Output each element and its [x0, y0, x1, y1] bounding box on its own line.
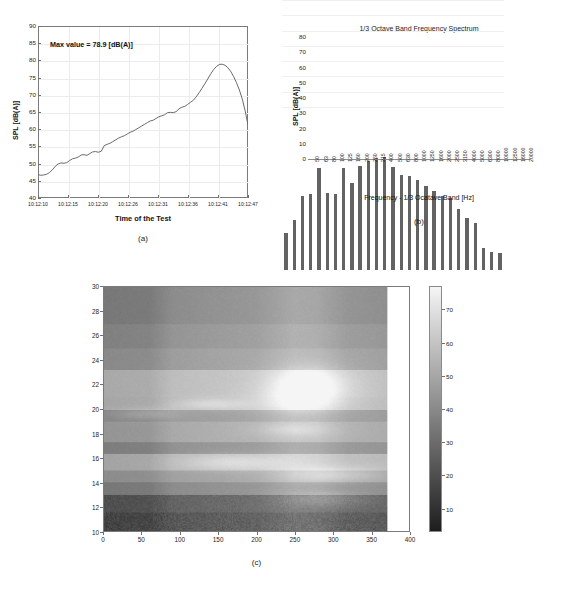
- panel-c-y-tickmark: [100, 286, 103, 287]
- panel-a-y-tickmark: [38, 43, 41, 44]
- panel-a-y-tickmark: [38, 78, 41, 79]
- panel-b-x-tick-label: 630: [405, 153, 411, 162]
- panel-a-y-tick-label: 85: [26, 40, 36, 46]
- panel-b-x-tick-label: 12500: [512, 148, 518, 162]
- panel-c-x-tick-label: 50: [138, 536, 145, 543]
- panel-a-x-tick-label: 10:12:36: [178, 201, 198, 207]
- panel-b-x-tick-label: 3150: [462, 150, 468, 162]
- panel-c-x-tickmark: [180, 532, 181, 535]
- panel-b-bar: [383, 157, 386, 270]
- panel-a-x-tickmark: [188, 195, 189, 198]
- panel-b-octave-spectrum: 1/3 Octave Band Frequency Spectrum SPL […: [282, 0, 570, 270]
- panel-b-y-tick-label: 60: [295, 65, 306, 71]
- panel-b-x-axis-label: Frequency - 1/3 Ocatave Band [Hz]: [308, 194, 530, 201]
- panel-c-colorbar-tickmark: [442, 409, 445, 410]
- panel-c-x-tickmark: [372, 532, 373, 535]
- panel-c-x-tickmark: [141, 532, 142, 535]
- panel-a-caption: (a): [123, 234, 163, 243]
- panel-b-x-tick-label: 100: [339, 153, 345, 162]
- panel-c-colorbar-tick-label: 20: [446, 472, 453, 479]
- panel-b-bar: [284, 233, 287, 270]
- panel-b-caption: (b): [399, 217, 439, 226]
- panel-c-x-tick-label: 250: [290, 536, 301, 543]
- panel-b-x-tick-label: 10000: [503, 148, 509, 162]
- panel-b-bar: [482, 248, 485, 270]
- panel-c-colorbar-tickmark: [442, 442, 445, 443]
- panel-c-y-tickmark: [100, 483, 103, 484]
- panel-c-x-tick-label: 400: [405, 536, 416, 543]
- panel-b-bar: [449, 198, 452, 270]
- panel-b-x-tick-label: 6300: [487, 150, 493, 162]
- panel-b-bar: [490, 252, 493, 270]
- panel-b-bar: [465, 218, 468, 270]
- panel-a-y-tickmark: [38, 60, 41, 61]
- panel-c-colorbar-tick-label: 30: [446, 439, 453, 446]
- panel-b-bar: [326, 193, 329, 270]
- panel-b-x-tick-label: 1600: [438, 150, 444, 162]
- panel-b-x-tick-label: 80: [331, 156, 337, 162]
- panel-a-x-tickmark: [98, 195, 99, 198]
- panel-a-y-tick-label: 90: [26, 23, 36, 29]
- panel-a-y-tickmark: [38, 129, 41, 130]
- panel-a-y-tick-label: 45: [26, 178, 36, 184]
- panel-c-x-tick-label: 350: [366, 536, 377, 543]
- panel-b-x-tick-label: 8000: [495, 150, 501, 162]
- panel-c-y-tick-label: 16: [85, 455, 99, 462]
- panel-a-y-tick-label: 70: [26, 92, 36, 98]
- panel-b-x-tick-label: 1000: [421, 150, 427, 162]
- panel-a-x-tickmark: [68, 195, 69, 198]
- panel-c-y-tick-label: 18: [85, 430, 99, 437]
- panel-a-x-tick-label: 10:12:10: [28, 201, 48, 207]
- panel-b-y-tick-label: 50: [295, 80, 306, 86]
- panel-b-gridline-h: [282, 0, 504, 1]
- panel-a-y-tickmark: [38, 198, 41, 199]
- panel-b-y-tick-label: 40: [295, 95, 306, 101]
- panel-b-gridline-h: [282, 15, 504, 16]
- panel-b-bar: [474, 223, 477, 270]
- panel-b-plot-area: [282, 0, 504, 122]
- panel-c-heatmap-canvas: [104, 287, 409, 531]
- panel-c-y-tick-label: 22: [85, 381, 99, 388]
- panel-b-x-tick-label: 500: [397, 153, 403, 162]
- panel-c-x-tickmark: [257, 532, 258, 535]
- panel-c-colorbar-tickmark: [442, 509, 445, 510]
- panel-a-x-tickmark: [218, 195, 219, 198]
- panel-a-x-tick-label: 10:12:20: [88, 201, 108, 207]
- panel-b-x-tick-label: 160: [355, 153, 361, 162]
- panel-b-x-tick-label: 2500: [454, 150, 460, 162]
- panel-a-y-tick-label: 80: [26, 57, 36, 63]
- panel-b-bar: [317, 168, 320, 270]
- panel-c-x-tickmark: [218, 532, 219, 535]
- panel-c-x-tickmark: [295, 532, 296, 535]
- panel-c-y-tick-label: 14: [85, 479, 99, 486]
- panel-c-colorbar-tick-label: 60: [446, 339, 453, 346]
- panel-b-bar: [498, 253, 501, 270]
- panel-b-bar: [367, 161, 370, 270]
- panel-b-x-tick-label: 250: [372, 153, 378, 162]
- panel-b-x-tick-label: 20000: [528, 148, 534, 162]
- panel-b-x-tick-label: 125: [347, 153, 353, 162]
- panel-b-gridline-h: [282, 76, 504, 77]
- panel-a-x-tick-label: 10:12:15: [58, 201, 78, 207]
- panel-a-y-axis-label: SPL [dB(A)]: [12, 101, 19, 140]
- panel-b-x-tick-label: 2000: [446, 150, 452, 162]
- panel-b-x-tick-label: 800: [413, 153, 419, 162]
- panel-b-gridline-h: [282, 31, 504, 32]
- panel-c-y-tick-label: 12: [85, 504, 99, 511]
- panel-c-colorbar-tick-label: 70: [446, 306, 453, 313]
- panel-c-x-tick-label: 150: [213, 536, 224, 543]
- panel-b-x-tick-label: 63: [323, 156, 329, 162]
- panel-c-x-tickmark: [103, 532, 104, 535]
- panel-c-colorbar-tickmark: [442, 475, 445, 476]
- panel-a-y-tick-label: 50: [26, 161, 36, 167]
- panel-c-heatmap-image: [104, 287, 409, 531]
- panel-a-y-tickmark: [38, 181, 41, 182]
- panel-c-x-tick-label: 200: [251, 536, 262, 543]
- panel-b-x-tick-label: 1250: [429, 150, 435, 162]
- panel-b-bar: [309, 194, 312, 270]
- panel-c-y-tick-label: 26: [85, 332, 99, 339]
- panel-c-x-tickmark: [333, 532, 334, 535]
- panel-a-x-tick-label: 10:12:31: [148, 201, 168, 207]
- panel-a-y-tickmark: [38, 146, 41, 147]
- panel-c-x-tick-label: 100: [174, 536, 185, 543]
